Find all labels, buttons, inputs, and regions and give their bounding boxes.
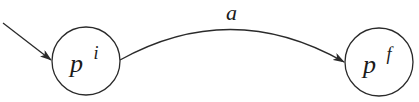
state-final: p f — [345, 28, 413, 96]
transition-a: a — [120, 0, 344, 62]
state-diagram: a p i p f — [0, 0, 419, 102]
state-initial-base: p — [68, 49, 83, 78]
initial-arrow — [3, 23, 51, 60]
transition-label: a — [226, 0, 237, 25]
state-initial-superscript: i — [94, 43, 99, 63]
state-final-base: p — [361, 50, 376, 79]
state-initial: p i — [52, 27, 120, 95]
